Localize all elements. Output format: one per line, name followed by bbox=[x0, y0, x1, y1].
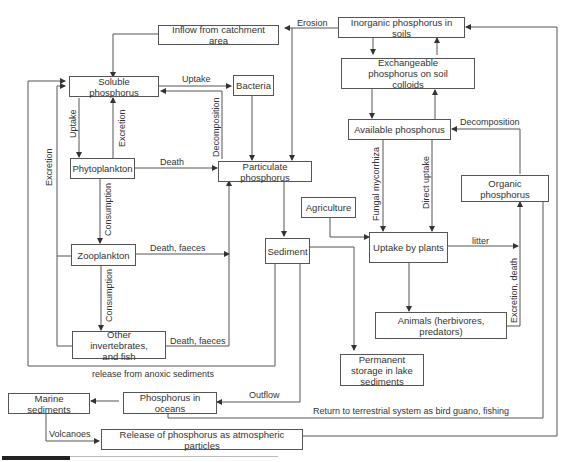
label-excretion-left: Excretion bbox=[44, 148, 54, 186]
label-volcanoes: Volcanoes bbox=[49, 429, 91, 439]
label-uptake-bacteria: Uptake bbox=[182, 74, 211, 84]
node-phosphorus-in-oceans: Phosphorus in oceans bbox=[123, 392, 217, 414]
footer-rule-dark bbox=[2, 456, 70, 460]
label-excretion-death: Excretion, death bbox=[509, 258, 519, 323]
footer-rule-light bbox=[70, 456, 278, 459]
node-permanent-storage: Permanent storage in lake sediments bbox=[340, 354, 424, 386]
label-fungal-mycorrhiza: Fungal mycorrhiza bbox=[371, 147, 381, 221]
label-uptake-phyto: Uptake bbox=[68, 109, 78, 138]
label-litter: litter bbox=[472, 236, 489, 246]
label-anoxic-release: release from anoxic sediments bbox=[92, 369, 214, 379]
node-phytoplankton: Phytoplankton bbox=[70, 158, 135, 179]
label-erosion: Erosion bbox=[297, 18, 328, 28]
label-decomposition-organic: Decomposition bbox=[460, 117, 520, 127]
node-atmospheric-release: Release of phosphorus as atmospheric par… bbox=[101, 429, 303, 450]
node-marine-sediments: Marine sediments bbox=[8, 393, 90, 414]
node-soluble-phosphorus: Soluble phosphorus bbox=[69, 76, 159, 97]
node-inflow: Inflow from catchment area bbox=[158, 25, 279, 45]
node-particulate-phosphorus: Particulate phosphorus bbox=[218, 161, 312, 182]
node-available-phosphorus: Available phosphorus bbox=[348, 119, 451, 140]
node-exchangeable-phosphorus: Exchangeable phosphorus on soil colloids bbox=[341, 58, 475, 89]
node-other-invertebrates: Other invertebrates, and fish bbox=[72, 331, 166, 359]
label-death: Death bbox=[160, 157, 184, 167]
label-return-terrestrial: Return to terrestrial system as bird gua… bbox=[313, 406, 509, 416]
label-death-faeces-zoo: Death, faeces bbox=[150, 243, 206, 253]
label-consumption-1: Consumption bbox=[103, 183, 113, 236]
node-agriculture: Agriculture bbox=[301, 197, 356, 218]
label-outflow: Outflow bbox=[249, 390, 280, 400]
label-death-faeces-invertebrates: Death, faeces bbox=[170, 336, 226, 346]
node-zooplankton: Zooplankton bbox=[71, 244, 136, 266]
label-decomposition-bacteria: Decomposition bbox=[211, 97, 221, 157]
label-direct-uptake: Direct uptake bbox=[421, 156, 431, 209]
label-excretion-phyto: Excretion bbox=[117, 109, 127, 147]
node-inorganic-soils: Inorganic phosphorus in soils bbox=[338, 17, 465, 38]
node-organic-phosphorus: Organic phosphorus bbox=[461, 175, 549, 202]
node-uptake-by-plants: Uptake by plants bbox=[369, 232, 448, 263]
node-bacteria: Bacteria bbox=[233, 75, 274, 96]
label-consumption-2: Consumption bbox=[104, 269, 114, 322]
node-animals: Animals (herbivores, predators) bbox=[375, 312, 507, 339]
node-sediment: Sediment bbox=[265, 238, 310, 264]
